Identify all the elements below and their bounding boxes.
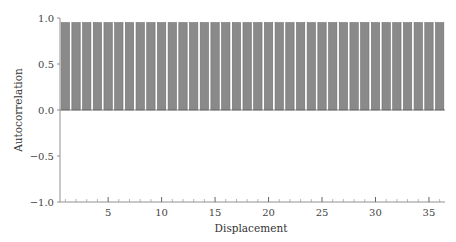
bar — [61, 23, 69, 110]
bar — [83, 23, 91, 110]
bar — [136, 23, 144, 110]
bar — [243, 23, 251, 110]
bar — [211, 23, 219, 110]
bar — [435, 23, 443, 110]
bar — [232, 23, 240, 110]
bar — [350, 23, 358, 110]
x-tick-label: 15 — [209, 207, 222, 218]
bar — [361, 23, 369, 110]
bar — [157, 23, 165, 110]
y-tick-label: 0.5 — [38, 59, 54, 70]
bar — [200, 23, 208, 110]
bar — [190, 23, 198, 110]
x-tick-label: 20 — [262, 207, 275, 218]
autocorrelation-chart: −1.0−0.50.00.51.0 5101520253035 Displace… — [0, 0, 456, 242]
x-tick-label: 10 — [155, 207, 168, 218]
bar — [414, 23, 422, 110]
x-tick-label: 35 — [423, 207, 436, 218]
y-tick-label: 1.0 — [38, 13, 54, 24]
bar — [329, 23, 337, 110]
bar — [104, 23, 112, 110]
y-tick-label: 0.0 — [38, 105, 54, 116]
x-tick-label: 5 — [105, 207, 111, 218]
bar — [72, 23, 80, 110]
bar — [254, 23, 262, 110]
bar — [393, 23, 401, 110]
bar — [425, 23, 433, 110]
y-tick-label: −1.0 — [30, 197, 54, 208]
bar — [115, 23, 123, 110]
bar — [222, 23, 230, 110]
bar — [264, 23, 272, 110]
bar — [371, 23, 379, 110]
y-axis-label: Autocorrelation — [12, 68, 24, 153]
x-tick-label: 30 — [369, 207, 382, 218]
bar — [286, 23, 294, 110]
bar — [147, 23, 155, 110]
bar-series — [60, 23, 445, 110]
bar — [296, 23, 304, 110]
bar — [339, 23, 347, 110]
y-tick-label: −0.5 — [30, 151, 54, 162]
x-axis: 5101520253035 — [60, 197, 445, 218]
bar — [125, 23, 133, 110]
bar — [275, 23, 283, 110]
x-axis-label: Displacement — [215, 222, 289, 234]
bar — [93, 23, 101, 110]
y-axis: −1.0−0.50.00.51.0 — [30, 13, 60, 208]
bar — [382, 23, 390, 110]
bar — [403, 23, 411, 110]
bar — [168, 23, 176, 110]
x-tick-label: 25 — [316, 207, 329, 218]
bar — [179, 23, 187, 110]
bar — [307, 23, 315, 110]
bar — [318, 23, 326, 110]
